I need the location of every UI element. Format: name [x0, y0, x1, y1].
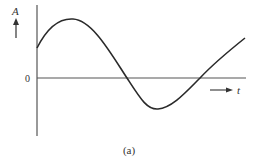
origin-label: 0 — [25, 73, 30, 84]
waveform-diagram: A 0 t (a) — [0, 0, 259, 164]
y-axis-arrow-icon — [13, 18, 19, 38]
y-axis-label: A — [11, 5, 19, 17]
x-axis-arrow-icon — [210, 88, 233, 93]
x-axis-label: t — [237, 84, 241, 96]
figure-caption: (a) — [123, 144, 136, 157]
waveform-curve — [37, 19, 245, 109]
